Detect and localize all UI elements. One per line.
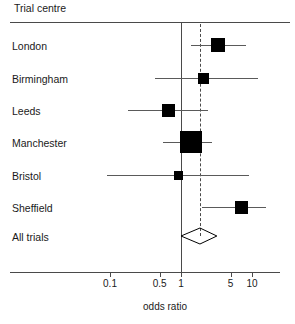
header-rule xyxy=(10,22,290,23)
effect-marker-london xyxy=(211,38,225,52)
x-tick-0.1 xyxy=(110,272,111,277)
x-tick-0.5 xyxy=(160,272,161,277)
forest-plot: Trial centre LondonBirminghamLeedsManche… xyxy=(0,0,295,324)
effect-marker-bristol xyxy=(174,171,183,180)
row-label-manchester: Manchester xyxy=(12,138,67,149)
x-axis-title: odds ratio xyxy=(143,302,187,312)
row-label-bristol: Bristol xyxy=(12,171,41,182)
row-label-london: London xyxy=(12,41,47,52)
x-tick-label-5: 5 xyxy=(228,279,234,289)
x-tick-label-1: 1 xyxy=(178,279,184,289)
x-tick-5 xyxy=(231,272,232,277)
x-tick-label-0.5: 0.5 xyxy=(153,279,167,289)
x-tick-label-0.1: 0.1 xyxy=(103,279,117,289)
row-label-sheffield: Sheffield xyxy=(12,203,53,214)
x-tick-label-10: 10 xyxy=(246,279,257,289)
effect-marker-sheffield xyxy=(235,201,248,214)
row-label-all-trials: All trials xyxy=(12,232,49,243)
x-tick-10 xyxy=(252,272,253,277)
row-label-birmingham: Birmingham xyxy=(12,74,68,85)
x-tick-1 xyxy=(181,272,182,277)
column-header-trial-centre: Trial centre xyxy=(14,3,66,14)
x-axis-line xyxy=(10,272,280,273)
effect-marker-manchester xyxy=(180,131,202,153)
row-label-leeds: Leeds xyxy=(12,106,41,117)
pooled-estimate-dashed-line xyxy=(200,24,201,236)
effect-marker-leeds xyxy=(162,104,175,117)
effect-marker-birmingham xyxy=(198,73,209,84)
pooled-estimate-diamond xyxy=(180,227,218,245)
